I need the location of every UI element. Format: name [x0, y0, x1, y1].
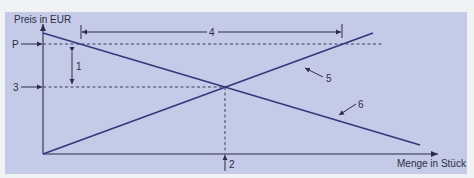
supply-curve-pointer-icon [305, 68, 323, 77]
supply-curve [43, 33, 373, 154]
demand-curve [43, 33, 420, 145]
price-gap-label: 1 [76, 61, 82, 72]
demand-curve-label: 6 [358, 99, 364, 110]
equilibrium-price-label: 3 [13, 82, 19, 93]
supply-curve-label: 5 [326, 73, 332, 84]
quantity-gap-label: 4 [209, 27, 215, 38]
supply-demand-diagram: Preis in EUR Menge in Stück P 3 1 4 2 5 … [0, 0, 474, 178]
price-p-label: P [12, 39, 19, 50]
equilibrium-quantity-label: 2 [229, 159, 235, 170]
x-axis-label: Menge in Stück [397, 158, 467, 169]
demand-curve-pointer-icon [339, 104, 356, 115]
y-axis-label: Preis in EUR [14, 14, 71, 25]
